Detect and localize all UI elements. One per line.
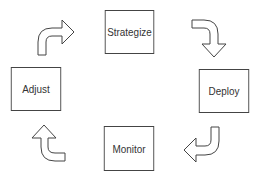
stage-label: Adjust [22, 83, 50, 95]
stage-monitor: Monitor [104, 126, 154, 171]
curved-arrow-icon [32, 125, 65, 161]
curved-arrow-icon [184, 127, 219, 162]
stage-strategize: Strategize [105, 10, 155, 54]
curved-arrow-icon [38, 20, 74, 55]
stage-deploy: Deploy [199, 69, 249, 113]
curved-arrow-icon [192, 20, 226, 57]
stage-label: Deploy [209, 85, 240, 97]
stage-label: Strategize [107, 26, 152, 38]
stage-label: Monitor [112, 143, 145, 155]
stage-adjust: Adjust [11, 67, 61, 111]
